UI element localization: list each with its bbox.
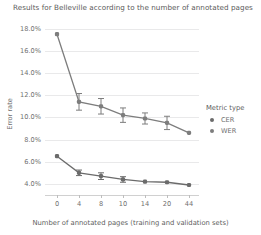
x-tick-mark: [101, 195, 102, 198]
y-tick-label: 12.0%: [20, 91, 41, 99]
legend-marker-icon: [210, 129, 214, 133]
chart-container: Results for Belleville according to the …: [0, 0, 261, 235]
data-point-marker: [55, 154, 59, 158]
x-tick-mark: [79, 195, 80, 198]
x-tick-mark: [145, 195, 146, 198]
x-tick-label: 14: [141, 200, 149, 208]
chart-title: Results for Belleville according to the …: [13, 3, 253, 12]
data-point-marker: [187, 183, 191, 187]
y-tick-label: 4.0%: [24, 180, 41, 188]
x-axis-title: Number of annotated pages (training and …: [0, 219, 261, 227]
x-tick-label: 10: [119, 200, 127, 208]
legend-items: CERWER: [206, 116, 261, 135]
y-tick-label: 14.0%: [20, 69, 41, 77]
x-tick-mark: [189, 195, 190, 198]
legend: Metric type CERWER: [206, 104, 261, 138]
data-series-layer: [45, 22, 199, 195]
legend-item-cer[interactable]: CER: [206, 116, 261, 124]
data-point-marker: [165, 121, 169, 125]
data-point-marker: [99, 104, 103, 108]
x-tick-label: 0: [55, 200, 59, 208]
x-tick-label: 20: [163, 200, 171, 208]
data-point-marker: [77, 171, 81, 175]
plot-area: [45, 22, 199, 195]
y-tick-label: 6.0%: [24, 158, 41, 166]
y-axis-labels: Error rate 4.0%6.0%8.0%10.0%12.0%14.0%16…: [0, 22, 41, 195]
data-point-marker: [187, 131, 191, 135]
data-point-marker: [99, 174, 103, 178]
x-tick-mark: [123, 195, 124, 198]
legend-title: Metric type: [206, 104, 261, 112]
data-point-marker: [121, 113, 125, 117]
data-point-marker: [55, 32, 59, 36]
y-axis-title: Error rate: [6, 86, 14, 142]
series-wer: [55, 32, 191, 135]
legend-label: CER: [221, 116, 234, 124]
x-tick-mark: [57, 195, 58, 198]
y-tick-label: 18.0%: [20, 25, 41, 33]
x-tick-mark: [167, 195, 168, 198]
data-point-marker: [77, 100, 81, 104]
legend-marker-icon: [210, 118, 214, 122]
y-tick-label: 8.0%: [24, 136, 41, 144]
y-tick-label: 16.0%: [20, 47, 41, 55]
x-axis-line: [45, 195, 199, 196]
legend-item-wer[interactable]: WER: [206, 127, 261, 135]
data-point-marker: [165, 180, 169, 184]
y-tick-label: 10.0%: [20, 113, 41, 121]
data-point-marker: [143, 180, 147, 184]
legend-label: WER: [221, 127, 236, 135]
series-cer: [55, 154, 191, 187]
x-tick-label: 4: [77, 200, 81, 208]
data-point-marker: [143, 116, 147, 120]
x-tick-label: 44: [185, 200, 193, 208]
x-tick-label: 8: [99, 200, 103, 208]
data-point-marker: [121, 177, 125, 181]
